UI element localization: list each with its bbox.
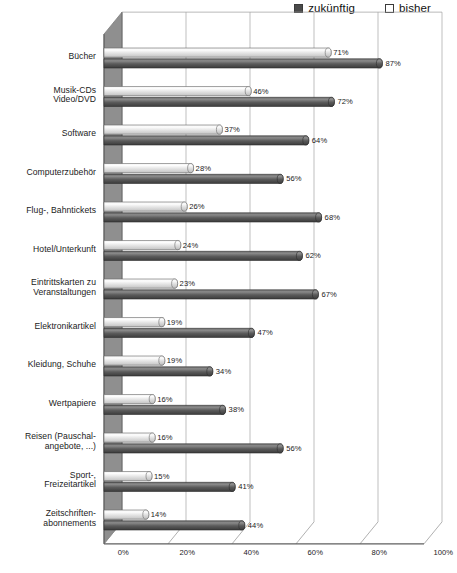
category-label: Bücher — [0, 52, 96, 62]
category-label: Flug-, Bahntickets — [0, 206, 96, 216]
value-label-zukuenftig: 38% — [229, 405, 245, 414]
value-label-bisher: 15% — [154, 472, 170, 481]
category-label-line: Zeitschriften- — [46, 508, 96, 518]
category-label-line: Reisen (Pauschal- — [25, 431, 96, 441]
category-label-line: Veranstaltungen — [33, 287, 96, 297]
category-label-line: abonnements — [43, 518, 96, 528]
axis-tick-label: 100% — [433, 548, 453, 557]
category-label-line: Bücher — [68, 51, 96, 61]
value-label-bisher: 37% — [224, 125, 240, 134]
value-label-zukuenftig: 41% — [238, 482, 254, 491]
category-label-line: Eintrittskarten zu — [31, 277, 96, 287]
value-label-zukuenftig: 87% — [385, 59, 401, 68]
axis-tick-label: 20% — [180, 548, 196, 557]
category-label-line: angebote, ...) — [45, 441, 96, 451]
value-label-bisher: 19% — [167, 318, 183, 327]
value-label-zukuenftig: 47% — [257, 328, 273, 337]
category-axis-labels: BücherMusik-CDsVideo/DVDSoftwareComputer… — [0, 0, 100, 573]
axis-tick-label: 40% — [244, 548, 260, 557]
category-label: Hotel/Unterkunft — [0, 245, 96, 255]
value-label-bisher: 23% — [180, 279, 196, 288]
value-label-zukuenftig: 68% — [325, 213, 341, 222]
category-label-line: Musik-CDs — [54, 85, 96, 95]
category-label-line: Computerzubehör — [26, 167, 96, 177]
category-label-line: Kleidung, Schuhe — [28, 359, 96, 369]
chart-page: zukünftig bisher BücherMusik-CDsVideo/DV… — [0, 0, 457, 573]
category-label: Musik-CDsVideo/DVD — [0, 86, 96, 105]
category-label-line: Video/DVD — [53, 94, 96, 104]
value-label-zukuenftig: 44% — [248, 521, 264, 530]
category-label-line: Elektronikartikel — [34, 321, 96, 331]
value-label-bisher: 16% — [157, 433, 173, 442]
category-label-line: Sport-, — [70, 470, 96, 480]
category-label: Software — [0, 129, 96, 139]
category-label: Wertpapiere — [0, 399, 96, 409]
value-label-bisher: 24% — [183, 241, 199, 250]
category-label-line: Flug-, Bahntickets — [26, 205, 96, 215]
value-label-zukuenftig: 34% — [216, 367, 232, 376]
value-label-bisher: 19% — [167, 356, 183, 365]
value-label-bisher: 26% — [189, 202, 205, 211]
category-label: Zeitschriften-abonnements — [0, 509, 96, 528]
value-label-zukuenftig: 72% — [337, 97, 353, 106]
category-label: Sport-,Freizeitartikel — [0, 471, 96, 490]
category-label: Kleidung, Schuhe — [0, 360, 96, 370]
value-label-zukuenftig: 56% — [286, 174, 302, 183]
value-label-zukuenftig: 62% — [305, 251, 321, 260]
chart-plot-area: BücherMusik-CDsVideo/DVDSoftwareComputer… — [0, 0, 457, 573]
value-label-bisher: 71% — [333, 48, 349, 57]
axis-tick-label: 0% — [118, 548, 129, 557]
category-label: Computerzubehör — [0, 168, 96, 178]
axis-tick-label: 80% — [372, 548, 388, 557]
value-label-bisher: 16% — [157, 395, 173, 404]
value-label-bisher: 14% — [151, 510, 167, 519]
category-label: Elektronikartikel — [0, 322, 96, 332]
category-label-line: Wertpapiere — [49, 398, 96, 408]
value-label-zukuenftig: 64% — [312, 136, 328, 145]
axis-tick-label: 60% — [308, 548, 324, 557]
value-label-bisher: 46% — [253, 87, 269, 96]
category-label: Reisen (Pauschal-angebote, ...) — [0, 432, 96, 451]
category-label-line: Freizeitartikel — [44, 479, 96, 489]
value-label-zukuenftig: 67% — [321, 290, 337, 299]
category-label: Eintrittskarten zuVeranstaltungen — [0, 278, 96, 297]
category-label-line: Hotel/Unterkunft — [33, 244, 96, 254]
value-label-bisher: 28% — [196, 164, 212, 173]
category-label-line: Software — [62, 128, 96, 138]
value-label-zukuenftig: 56% — [286, 444, 302, 453]
